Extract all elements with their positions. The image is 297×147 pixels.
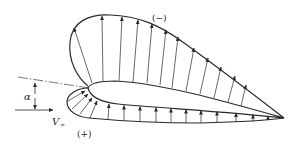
airfoil-pressure-diagram: (−) (+) α V ∞ [0, 0, 297, 147]
suction-side-label: (−) [152, 13, 167, 23]
alpha-label: α [24, 91, 31, 102]
velocity-subscript: ∞ [60, 121, 65, 128]
pressure-side-label: (+) [77, 129, 92, 139]
